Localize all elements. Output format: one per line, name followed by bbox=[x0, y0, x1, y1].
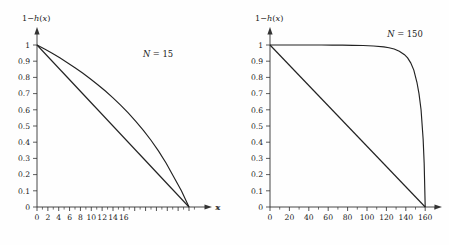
x-tick-label: 40 bbox=[304, 213, 314, 222]
y-tick-label: 0.5 bbox=[251, 122, 263, 131]
x-tick-label: 10 bbox=[86, 213, 96, 222]
y-tick-label: 0.7 bbox=[251, 89, 263, 98]
annotation-n-right: N=150 bbox=[386, 29, 423, 39]
y-tick-label: 0.1 bbox=[251, 187, 263, 196]
x-tick-label: 8 bbox=[78, 213, 83, 222]
y-tick-label: 0.4 bbox=[18, 138, 30, 147]
figure-container: 1−h(x) x bbox=[0, 0, 449, 245]
y-axis-label-left: 1−h(x) bbox=[22, 13, 50, 23]
y-tick-label: 0.6 bbox=[18, 106, 30, 115]
x-tick-label: 100 bbox=[360, 213, 375, 222]
x-tick-label: 80 bbox=[343, 213, 353, 222]
x-tick-label: 6 bbox=[67, 213, 72, 222]
y-tick-labels-right: 0 0.1 0.2 0.3 0.4 0.5 0.6 0.7 0.8 0.9 1 bbox=[251, 41, 263, 212]
y-tick-label: 1 bbox=[258, 41, 263, 50]
x-tick-label: 0 bbox=[268, 213, 273, 222]
y-tick-label: 0.2 bbox=[18, 170, 30, 179]
x-major-ticks-right bbox=[270, 207, 425, 211]
x-tick-labels-left: 0 2 4 6 8 10 12 14 16 bbox=[35, 213, 129, 222]
plot-svg-left: 1−h(x) x bbox=[0, 0, 224, 245]
x-tick-label: 120 bbox=[379, 213, 394, 222]
x-tick-label: 20 bbox=[285, 213, 295, 222]
y-axis-label-right: 1−h(x) bbox=[255, 13, 283, 23]
x-tick-label: 0 bbox=[35, 213, 40, 222]
y-tick-labels-left: 0 0.1 0.2 0.3 0.4 0.5 0.6 0.7 0.8 0.9 1 bbox=[18, 41, 30, 212]
y-tick-label: 0.4 bbox=[251, 138, 263, 147]
x-tick-label: 60 bbox=[323, 213, 333, 222]
y-ticks-right bbox=[266, 45, 270, 207]
y-tick-label: 0.1 bbox=[18, 187, 30, 196]
y-tick-label: 0 bbox=[25, 203, 30, 212]
x-axis-arrow-left bbox=[205, 204, 213, 209]
x-major-ticks-left bbox=[37, 207, 189, 211]
x-axis-label-right: x bbox=[216, 202, 221, 212]
x-tick-label: 12 bbox=[97, 213, 107, 222]
y-tick-label: 1 bbox=[25, 41, 30, 50]
y-tick-label: 0.8 bbox=[251, 73, 263, 82]
y-axis-arrow-right bbox=[267, 27, 272, 35]
y-tick-label: 0.9 bbox=[18, 57, 30, 66]
x-tick-label: 14 bbox=[108, 213, 118, 222]
y-tick-label: 0.2 bbox=[251, 170, 263, 179]
x-tick-label: 140 bbox=[399, 213, 414, 222]
y-ticks-left bbox=[33, 45, 37, 207]
x-tick-label: 2 bbox=[45, 213, 50, 222]
x-axis-arrow-right bbox=[435, 204, 443, 209]
y-tick-label: 0.5 bbox=[18, 122, 30, 131]
annotation-n-left: N=15 bbox=[142, 49, 173, 59]
x-tick-labels-right: 0 20 40 60 80 100 120 140 160 bbox=[268, 213, 433, 222]
y-tick-label: 0 bbox=[258, 203, 263, 212]
plot-panel-right: 1−h(x) x bbox=[225, 0, 449, 245]
series-straight-line-right bbox=[270, 45, 425, 207]
y-tick-label: 0.8 bbox=[18, 73, 30, 82]
y-tick-label: 0.7 bbox=[18, 89, 30, 98]
x-tick-label: 4 bbox=[56, 213, 61, 222]
plot-svg-right: 1−h(x) x bbox=[225, 0, 449, 245]
x-tick-label: 16 bbox=[119, 213, 129, 222]
series-straight-line-left bbox=[37, 45, 189, 207]
y-tick-label: 0.3 bbox=[251, 154, 263, 163]
y-axis-arrow-left bbox=[34, 27, 39, 35]
y-tick-label: 0.9 bbox=[251, 57, 263, 66]
plot-panel-left: 1−h(x) x bbox=[0, 0, 224, 245]
x-tick-label: 160 bbox=[418, 213, 433, 222]
y-tick-label: 0.6 bbox=[251, 106, 263, 115]
y-tick-label: 0.3 bbox=[18, 154, 30, 163]
